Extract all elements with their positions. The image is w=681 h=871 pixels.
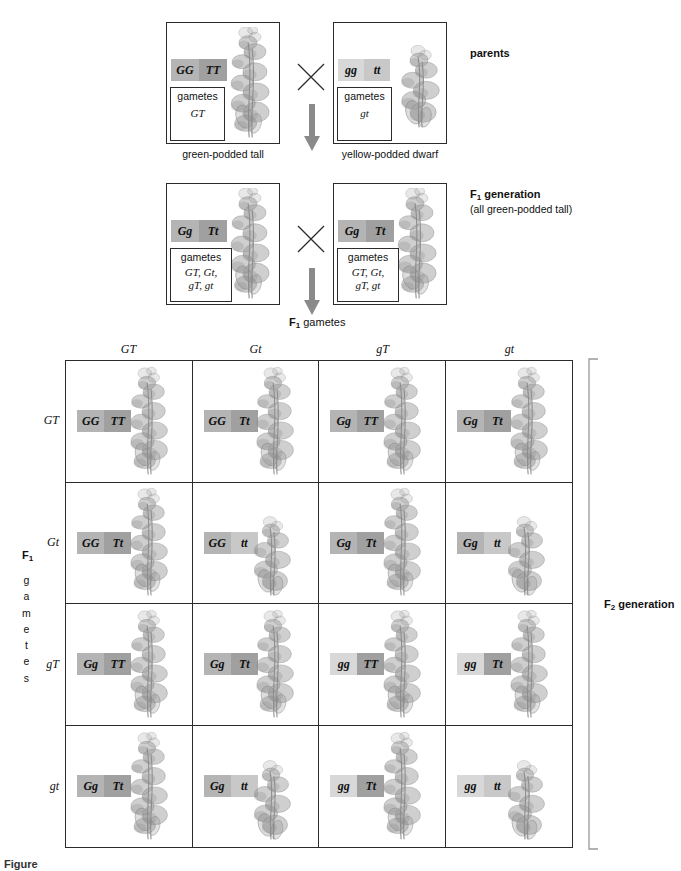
- allele-pod: Gg: [77, 653, 104, 675]
- gamete-box: gametes gt: [337, 87, 392, 141]
- gametes-letter: g: [23, 572, 29, 588]
- allele-pod: Gg: [457, 532, 484, 554]
- f1-gametes-prefix: F: [289, 316, 296, 328]
- plant-illustration: [245, 513, 295, 597]
- allele-pod: Gg: [338, 220, 366, 242]
- f1-label-rest: generation: [481, 188, 540, 200]
- allele-height: Tt: [366, 220, 394, 242]
- punnett-row-header: gT: [33, 657, 59, 672]
- row-axis-subscript: 1: [29, 554, 33, 563]
- f1-generation-label: F1 generation (all green-podded tall): [470, 187, 572, 217]
- punnett-cell: GgTt: [319, 483, 446, 605]
- f2-label-rest: generation: [615, 598, 674, 610]
- punnett-row-header: GT: [33, 413, 59, 428]
- f2-bracket: [586, 358, 600, 850]
- gametes-letter: e: [23, 621, 29, 637]
- row-axis-prefix: F: [22, 549, 29, 561]
- parent-panel-right: ggtt gametes gt: [333, 22, 447, 144]
- plant-illustration: [245, 607, 301, 719]
- plant-illustration: [499, 513, 549, 597]
- f1-sublabel: (all green-podded tall): [470, 203, 572, 217]
- arrow-f1-to-gametes: [304, 268, 320, 316]
- f1-panel-left: GgTt gametes GT, Gt, gT, gt: [166, 183, 280, 305]
- allele-pod: GG: [171, 59, 199, 81]
- punnett-column-header: Gt: [192, 342, 319, 357]
- parent-panel-left: GGTT gametes GT: [166, 22, 280, 144]
- f1-label-subscript: 1: [477, 193, 481, 202]
- punnett-cell: GGTt: [193, 361, 320, 483]
- plant-illustration: [499, 757, 549, 841]
- gamete-values-line1: GT, Gt,: [352, 266, 385, 279]
- punnett-column-header: GT: [65, 342, 192, 357]
- gamete-box-label: gametes: [344, 90, 384, 102]
- plant-illustration: [119, 364, 175, 476]
- punnett-cell: GgTt: [446, 361, 573, 483]
- plant-illustration: [372, 364, 428, 476]
- plant-illustration: [245, 757, 295, 841]
- punnett-cell: GgTT: [66, 604, 193, 726]
- allele-pod: gg: [457, 653, 484, 675]
- f1-gametes-subscript: 1: [296, 321, 300, 330]
- arrow-parents-to-f1: [304, 104, 320, 152]
- gametes-vertical-letters: gametes: [22, 572, 31, 686]
- allele-pod: GG: [77, 410, 104, 432]
- gametes-letter: m: [22, 605, 31, 621]
- plant-illustration: [119, 729, 175, 841]
- gamete-box-label: gametes: [177, 90, 217, 102]
- f2-label-subscript: 2: [611, 603, 615, 612]
- gamete-box: gametes GT, Gt, gT, gt: [170, 248, 232, 302]
- f1-gametes-header: F1 gametes: [289, 316, 345, 328]
- allele-pod: GG: [204, 410, 231, 432]
- punnett-cell: ggTt: [446, 604, 573, 726]
- allele-pod: Gg: [204, 775, 231, 797]
- allele-pod: gg: [457, 775, 484, 797]
- parent-left-caption: green-podded tall: [166, 148, 280, 160]
- allele-pod: gg: [338, 59, 364, 81]
- plant-illustration: [119, 607, 175, 719]
- allele-height: tt: [364, 59, 390, 81]
- allele-pod: gg: [330, 775, 357, 797]
- diagram-canvas: GGTT gametes GT green-podded tall ggtt g…: [0, 0, 681, 871]
- punnett-column-header: gT: [319, 342, 446, 357]
- gamete-values-line2: gT, gt: [356, 279, 381, 292]
- plant-illustration: [499, 607, 555, 719]
- punnett-cell: Ggtt: [193, 726, 320, 848]
- gamete-box-label: gametes: [181, 251, 221, 263]
- punnett-cell: GGTT: [66, 361, 193, 483]
- plant-illustration: [245, 364, 301, 476]
- plant-illustration: [499, 364, 555, 476]
- f2-label-prefix: F: [604, 598, 611, 610]
- gamete-values: gt: [360, 107, 369, 120]
- plant-illustration: [219, 27, 277, 139]
- allele-pod: GG: [77, 532, 104, 554]
- genotype-box: GGTT: [171, 59, 227, 81]
- genotype-box: GgTt: [171, 220, 227, 242]
- plant-illustration: [392, 45, 444, 129]
- f1-panel-right: GgTt gametes GT, Gt, gT, gt: [333, 183, 447, 305]
- genotype-box: ggtt: [338, 59, 390, 81]
- allele-pod: GG: [204, 532, 231, 554]
- f1-gametes-text: gametes: [300, 316, 345, 328]
- f1-gametes-axis-label: F1: [22, 548, 33, 562]
- allele-pod: Gg: [204, 653, 231, 675]
- parents-label: parents: [470, 46, 510, 60]
- gamete-box: gametes GT: [170, 87, 225, 141]
- plant-illustration: [372, 607, 428, 719]
- gametes-letter: t: [25, 637, 28, 653]
- punnett-cell: ggTT: [319, 604, 446, 726]
- allele-pod: Gg: [77, 775, 104, 797]
- allele-height: TT: [199, 59, 227, 81]
- gamete-values: GT: [190, 107, 204, 120]
- cross-symbol-f1: [296, 224, 326, 254]
- punnett-cell: GgTT: [319, 361, 446, 483]
- allele-pod: Gg: [457, 410, 484, 432]
- punnett-cell: GgTt: [193, 604, 320, 726]
- punnett-cell: GGtt: [193, 483, 320, 605]
- f2-generation-label: F2 generation: [604, 597, 674, 611]
- punnett-row-header: Gt: [33, 535, 59, 550]
- punnett-column-header: gt: [446, 342, 573, 357]
- punnett-row-header: gt: [33, 779, 59, 794]
- punnett-square: GGTTGGTtGgTTGgTtGGTtGGttGgTtGgttGgTTGgTt…: [65, 360, 573, 848]
- plant-illustration: [119, 485, 175, 597]
- figure-caption: Figure: [4, 858, 38, 870]
